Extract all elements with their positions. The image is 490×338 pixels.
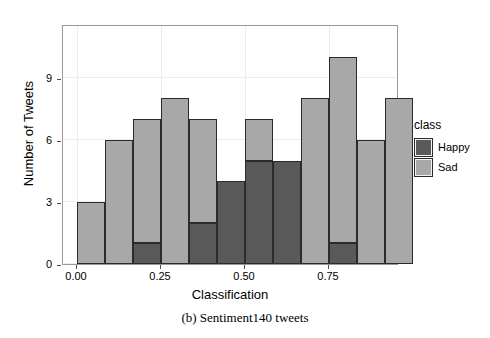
histogram-bar bbox=[245, 119, 273, 264]
histogram-bar bbox=[133, 119, 161, 264]
x-tick-label: 0.75 bbox=[305, 271, 351, 282]
bar-segment-sad bbox=[245, 119, 273, 160]
histogram-bar bbox=[329, 57, 357, 264]
bar-segment-sad bbox=[161, 98, 189, 264]
bar-segment-happy bbox=[217, 181, 245, 264]
bar-segment-sad bbox=[77, 202, 105, 264]
figure-caption: (b) Sentiment140 tweets bbox=[0, 310, 490, 326]
y-tick-mark bbox=[57, 141, 61, 142]
legend-item: Sad bbox=[414, 157, 484, 177]
y-tick-label: 0 bbox=[28, 259, 52, 270]
bar-segment-happy bbox=[133, 243, 161, 264]
bar-segment-sad bbox=[301, 98, 329, 264]
bar-segment-sad bbox=[329, 57, 357, 243]
figure-sentiment140-histogram: 0369 0.000.250.500.75 Classification Num… bbox=[0, 0, 490, 338]
histogram-bar bbox=[301, 98, 329, 264]
histogram-bar bbox=[217, 181, 245, 264]
bar-segment-happy bbox=[273, 161, 301, 264]
bar-segment-sad bbox=[357, 140, 385, 264]
y-tick-mark bbox=[57, 265, 61, 266]
x-tick-mark bbox=[244, 265, 245, 269]
legend-label: Happy bbox=[438, 141, 470, 153]
bar-series-group bbox=[63, 26, 397, 264]
histogram-bar bbox=[385, 98, 413, 264]
histogram-bar bbox=[189, 119, 217, 264]
legend-items: HappySad bbox=[414, 137, 484, 177]
histogram-bar bbox=[161, 98, 189, 264]
y-tick-mark bbox=[57, 203, 61, 204]
legend-swatch-sad bbox=[416, 160, 431, 175]
legend-key bbox=[414, 138, 433, 157]
legend-item: Happy bbox=[414, 137, 484, 157]
legend-label: Sad bbox=[438, 161, 458, 173]
x-tick-mark bbox=[328, 265, 329, 269]
bar-segment-sad bbox=[133, 119, 161, 243]
x-tick-label: 0.50 bbox=[221, 271, 267, 282]
bar-segment-happy bbox=[329, 243, 357, 264]
histogram-bar bbox=[105, 140, 133, 264]
legend-key bbox=[414, 158, 433, 177]
plot-panel bbox=[62, 25, 398, 265]
x-tick-mark bbox=[160, 265, 161, 269]
x-tick-mark bbox=[76, 265, 77, 269]
x-tick-label: 0.00 bbox=[53, 271, 99, 282]
bar-segment-sad bbox=[385, 98, 413, 264]
histogram-bar bbox=[273, 161, 301, 264]
histogram-bar bbox=[77, 202, 105, 264]
legend: class HappySad bbox=[414, 118, 484, 177]
x-tick-label: 0.25 bbox=[137, 271, 183, 282]
x-axis-label: Classification bbox=[62, 287, 398, 302]
y-axis-label: Number of Tweets bbox=[21, 44, 36, 224]
bar-segment-happy bbox=[189, 223, 217, 264]
legend-swatch-happy bbox=[416, 140, 431, 155]
histogram-bar bbox=[357, 140, 385, 264]
bar-segment-sad bbox=[189, 119, 217, 222]
bar-segment-happy bbox=[245, 161, 273, 264]
bar-segment-sad bbox=[105, 140, 133, 264]
y-tick-mark bbox=[57, 79, 61, 80]
legend-title: class bbox=[414, 118, 484, 132]
